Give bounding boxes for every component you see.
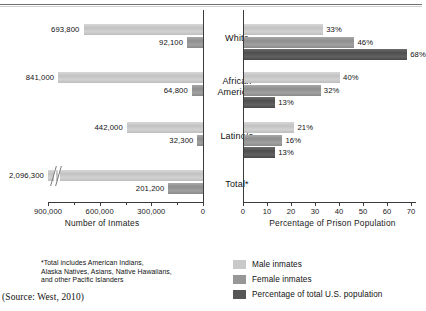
left-tick-label: 600,000 (86, 207, 114, 216)
right-bar-white-s0 (244, 24, 323, 35)
right-bar-african-american-s2 (244, 97, 275, 108)
legend-item: Female inmates (233, 273, 383, 285)
right-bar-value-label: 32% (324, 86, 340, 95)
axis-break-icon (50, 166, 63, 185)
legend-item: Percentage of total U.S. population (233, 288, 383, 300)
right-tick-label: 60 (383, 207, 392, 216)
page-rule-top-2 (0, 6, 422, 7)
prison-population-chart: 900,000600,000300,0000 693,800841,000442… (0, 10, 422, 225)
left-tick-minor (74, 202, 75, 205)
legend-label: Male inmates (252, 260, 302, 269)
right-bar-white-s1 (244, 37, 354, 48)
right-bar-value-label: 13% (278, 148, 294, 157)
right-tick-label: 20 (287, 207, 296, 216)
left-bar-value-label: 201,200 (124, 184, 164, 193)
right-bar-value-label: 46% (357, 38, 373, 47)
left-bar-value-label: 841,000 (14, 73, 54, 82)
left-panel-axis-title: Number of Inmates (0, 218, 204, 228)
right-bar-latino-a-s1 (244, 135, 282, 146)
left-panel-number-of-inmates: 900,000600,000300,0000 693,800841,000442… (0, 10, 204, 210)
right-bar-value-label: 40% (343, 73, 359, 82)
right-tick-label: 30 (311, 207, 320, 216)
legend-label: Percentage of total U.S. population (252, 290, 383, 299)
right-bar-african-american-s0 (244, 72, 340, 83)
page-rule-top (0, 4, 422, 5)
left-bar-value-label: 64,800 (148, 86, 188, 95)
left-tick-900000 (48, 202, 49, 206)
right-tick-label: 40 (335, 207, 344, 216)
left-bar-african-american-male (58, 72, 203, 83)
legend-swatch (233, 275, 246, 284)
right-panel-axis-title: Percentage of Prison Population (243, 218, 422, 228)
right-bar-value-label: 33% (326, 25, 342, 34)
right-bar-latino-a-s0 (244, 122, 294, 133)
legend-swatch (233, 290, 246, 299)
left-tick-label: 0 (201, 207, 205, 216)
left-bar-latino-a-female (197, 135, 203, 146)
right-panel-value-axis (243, 202, 416, 203)
left-bar-total--male (48, 170, 203, 181)
right-tick-label: 50 (359, 207, 368, 216)
legend-swatch (233, 260, 246, 269)
left-tick-minor (177, 202, 178, 205)
left-bar-white-male (84, 24, 203, 35)
right-tick-60 (387, 202, 388, 206)
right-tick-70 (411, 202, 412, 206)
left-tick-minor (126, 202, 127, 205)
right-tick-20 (291, 202, 292, 206)
legend-label: Female inmates (252, 275, 312, 284)
chart-legend: Male inmatesFemale inmatesPercentage of … (233, 258, 383, 304)
right-bar-value-label: 68% (410, 50, 426, 59)
right-panel-percentage-of-prison-population: 010203040506070 33%40%21%46%32%16%68%13%… (243, 10, 422, 210)
right-tick-10 (267, 202, 268, 206)
left-tick-label: 300,000 (137, 207, 165, 216)
footnote-line: and other Pacific Islanders (41, 276, 172, 285)
left-tick-300000 (151, 202, 152, 206)
left-tick-0 (203, 202, 204, 206)
left-tick-label: 900,000 (34, 207, 62, 216)
left-bar-latino-a-male (127, 122, 203, 133)
right-tick-label: 10 (263, 207, 272, 216)
left-tick-600000 (100, 202, 101, 206)
left-bar-value-label: 32,300 (153, 136, 193, 145)
left-bar-value-label: 2,096,300 (4, 171, 44, 180)
right-bar-latino-a-s2 (244, 147, 275, 158)
source-line: (Source: West, 2010) (2, 292, 84, 302)
legend-item: Male inmates (233, 258, 383, 270)
right-tick-30 (315, 202, 316, 206)
right-tick-50 (363, 202, 364, 206)
left-bar-african-american-female (192, 85, 203, 96)
right-bar-value-label: 16% (285, 136, 301, 145)
right-bar-african-american-s1 (244, 85, 321, 96)
right-bar-value-label: 13% (278, 98, 294, 107)
right-tick-label: 0 (241, 207, 245, 216)
right-tick-label: 70 (407, 207, 416, 216)
right-bar-value-label: 21% (297, 123, 313, 132)
right-tick-40 (339, 202, 340, 206)
left-bar-value-label: 693,800 (40, 25, 80, 34)
footnote: *Total includes American Indians,Alaska … (41, 259, 172, 285)
right-bar-white-s2 (244, 49, 407, 60)
left-bar-value-label: 92,100 (143, 38, 183, 47)
left-bar-value-label: 442,000 (83, 123, 123, 132)
left-bar-white-female (187, 37, 203, 48)
left-bar-total--female (168, 183, 203, 194)
right-tick-0 (243, 202, 244, 206)
footnote-line: Alaska Natives, Asians, Native Hawaiians… (41, 268, 172, 277)
footnote-line: *Total includes American Indians, (41, 259, 172, 268)
